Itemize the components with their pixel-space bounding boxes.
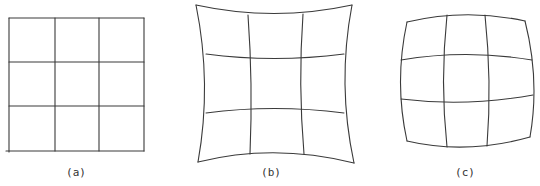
grid-line-c-4 xyxy=(401,22,408,141)
grid-line-c-5 xyxy=(444,15,448,147)
panel-c-grid xyxy=(401,15,535,147)
figure-canvas: (a) (b) (c) xyxy=(0,0,540,186)
grid-line-c-1 xyxy=(401,55,532,61)
panel-b-label: (b) xyxy=(261,166,281,179)
panel-a-label: (a) xyxy=(66,166,86,179)
grid-line-c-7 xyxy=(525,21,534,137)
panel-b-grid xyxy=(196,5,354,163)
grid-line-b-6 xyxy=(301,14,304,154)
grid-line-c-6 xyxy=(485,15,489,146)
grid-line-b-5 xyxy=(248,15,251,154)
panel-c-label: (c) xyxy=(455,166,475,179)
grid-line-b-0 xyxy=(196,5,352,14)
grid-line-b-3 xyxy=(198,153,354,163)
grid-line-b-2 xyxy=(206,109,344,114)
grid-line-b-4 xyxy=(196,5,205,162)
grid-line-c-0 xyxy=(407,15,525,22)
grid-line-b-1 xyxy=(206,54,344,59)
grid-line-c-2 xyxy=(401,95,533,102)
grid-line-c-3 xyxy=(407,137,530,147)
panel-a-grid xyxy=(6,18,144,152)
grid-line-b-7 xyxy=(345,5,354,163)
distortion-figure: (a) (b) (c) xyxy=(0,0,540,186)
